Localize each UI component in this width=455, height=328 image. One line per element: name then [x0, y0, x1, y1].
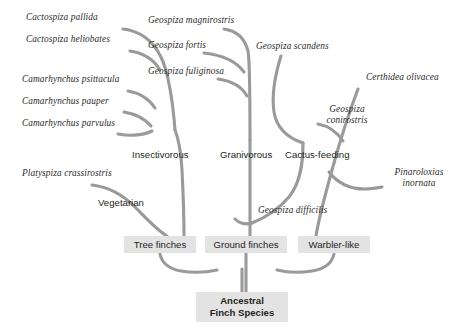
phylogenetic-tree-diagram: Cactospiza pallida Cactospiza heliobates… [0, 0, 455, 328]
species-label-cactospiza-heliobates: Cactospiza heliobates [26, 34, 110, 44]
species-label-cactospiza-pallida: Cactospiza pallida [26, 12, 98, 22]
species-label-geospiza-magnirostris: Geospiza magnirostris [148, 15, 234, 25]
group-label-insectivorous: Insectivorous [132, 150, 189, 161]
root-box-line2: Finch Species [210, 307, 275, 319]
species-label-geospiza-scandens: Geospiza scandens [256, 41, 329, 51]
species-label-pinaroloxias-inornata: Pinaroloxias inornata [386, 167, 452, 189]
branch-tip-geospiza-fuliginosa [218, 79, 247, 96]
clade-box-label: Ground finches [213, 239, 278, 250]
species-label-geospiza-conirostris: Geospiza conirostris [316, 104, 378, 126]
species-label-geospiza-difficilis: Geospiza difficilis [258, 205, 327, 215]
branch-insectivorous-trunk [175, 130, 184, 236]
branch-tip-geospiza-conirostris [318, 124, 343, 141]
branch-join-tree-finches [160, 254, 217, 272]
branch-tip-camarhynchus-parvulus [118, 131, 152, 135]
species-label-camarhynchus-psittacula: Camarhynchus psittacula [22, 74, 119, 84]
clade-box-ground-finches[interactable]: Ground finches [205, 236, 287, 253]
root-box-line1: Ancestral [220, 295, 264, 307]
group-label-cactus-feeding: Cactus-feeding [285, 150, 350, 161]
branch-tip-pinaroloxias-inornata [329, 172, 382, 189]
species-label-line2: conirostris [326, 115, 367, 125]
branch-tip-camarhynchus-psittacula [128, 91, 155, 108]
species-label-line1: Geospiza [329, 104, 364, 114]
group-label-vegetarian: Vegetarian [98, 198, 144, 209]
clade-box-label: Warbler-like [309, 239, 360, 250]
species-label-camarhynchus-parvulus: Camarhynchus parvulus [22, 118, 115, 128]
species-label-line1: Pinaroloxias [395, 167, 444, 177]
group-label-granivorous: Granivorous [220, 150, 272, 161]
root-box-ancestral-finch-species[interactable]: Ancestral Finch Species [196, 292, 288, 322]
species-label-line2: inornata [403, 178, 436, 188]
branch-tip-geospiza-scandens [273, 56, 303, 143]
tree-branches-svg [0, 0, 455, 328]
branch-tip-platyspiza-crassirostris [92, 185, 167, 236]
species-label-certhidea-olivacea: Certhidea olivacea [366, 72, 439, 82]
species-label-geospiza-fuliginosa: Geospiza fuliginosa [148, 66, 224, 76]
clade-box-warbler-like[interactable]: Warbler-like [298, 236, 370, 253]
species-label-platyspiza-crassirostris: Platyspiza crassirostris [22, 168, 112, 178]
species-label-geospiza-fortis: Geospiza fortis [148, 40, 206, 50]
clade-box-tree-finches[interactable]: Tree finches [124, 236, 196, 253]
branch-join-warbler-like [277, 254, 334, 272]
branch-tip-camarhynchus-pauper [124, 112, 151, 126]
species-label-camarhynchus-pauper: Camarhynchus pauper [22, 96, 109, 106]
clade-box-label: Tree finches [134, 239, 186, 250]
